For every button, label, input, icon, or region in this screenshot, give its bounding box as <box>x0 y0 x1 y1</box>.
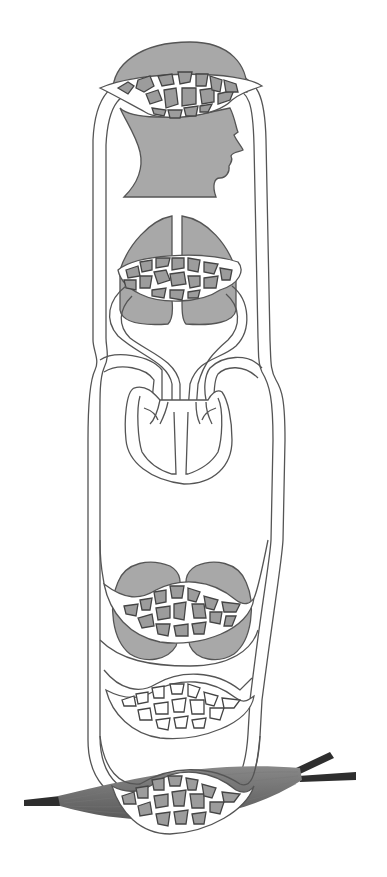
circulatory-diagram <box>0 0 387 877</box>
head-organ <box>113 42 247 197</box>
heart <box>125 387 232 484</box>
unfilled-capillary-bed <box>104 670 254 739</box>
